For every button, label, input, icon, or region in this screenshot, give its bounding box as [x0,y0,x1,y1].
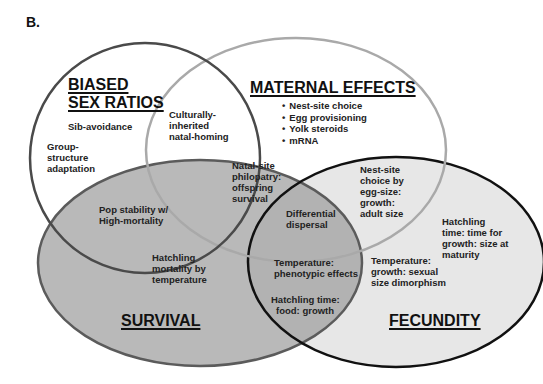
hatchling-time-maturity-label-3: growth: size at [442,238,509,250]
hatchling-time-maturity-label-4: maturity [442,249,479,261]
nest-site-egg-size-label-5: adult size [360,208,403,220]
maternal-effects-list: Nest-site choice Egg provisioning Yolk s… [282,100,367,146]
natal-site-label-2: philopatry: [232,171,281,183]
panel-label: B. [26,14,40,30]
hatchling-food-label-2: food: growth [276,305,334,317]
pop-stability-label-1: Pop stability w/ [99,204,168,216]
hatchling-mortality-label-1: Hatchling [152,252,195,264]
group-structure-label-2: structure [47,152,88,164]
differential-dispersal-label-1: Differential [286,208,336,220]
group-structure-label-1: Group- [47,141,79,153]
natal-site-label-4: survival [232,193,268,205]
differential-dispersal-label-2: dispersal [286,219,328,231]
culturally-inherited-label-2: inherited [169,120,209,132]
group-structure-label-3: adaptation [47,163,95,175]
hatchling-mortality-label-3: temperature [152,274,207,286]
survival-title: SURVIVAL [121,312,200,330]
bullet-yolk-steroids: Yolk steroids [282,123,367,135]
nest-site-egg-size-label-1: Nest-site [360,164,400,176]
temperature-dimorphism-label-1: Temperature: [371,255,431,267]
bullet-egg-provisioning: Egg provisioning [282,112,367,124]
hatchling-food-label-1: Hatchling time: [271,294,340,306]
nest-site-egg-size-label-3: egg-size: [360,186,401,198]
temperature-dimorphism-label-2: growth: sexual [371,266,438,278]
natal-site-label-1: Natal-site [232,160,275,172]
hatchling-time-maturity-label-2: time: time for [442,227,502,239]
maternal-effects-title: MATERNAL EFFECTS [250,79,416,97]
biased-sex-ratios-title-1: BIASED [68,76,128,94]
sib-avoidance-label: Sib-avoidance [68,121,132,133]
hatchling-time-maturity-label-1: Hatchling [442,216,485,228]
culturally-inherited-label-1: Culturally- [169,109,216,121]
hatchling-mortality-label-2: mortality by [152,263,206,275]
temperature-dimorphism-label-3: size dimorphism [371,277,446,289]
nest-site-egg-size-label-2: choice by [360,175,404,187]
pop-stability-label-2: High-mortality [99,215,163,227]
biased-sex-ratios-title-2: SEX RATIOS [68,94,164,112]
culturally-inherited-label-3: natal-homing [169,131,229,143]
nest-site-egg-size-label-4: growth: [360,197,395,209]
temperature-phenotypic-label-1: Temperature: [274,257,334,269]
fecundity-title: FECUNDITY [389,312,481,330]
natal-site-label-3: offspring [232,182,273,194]
bullet-nest-site-choice: Nest-site choice [282,100,367,112]
temperature-phenotypic-label-2: phenotypic effects [274,268,358,280]
bullet-mrna: mRNA [282,135,367,147]
